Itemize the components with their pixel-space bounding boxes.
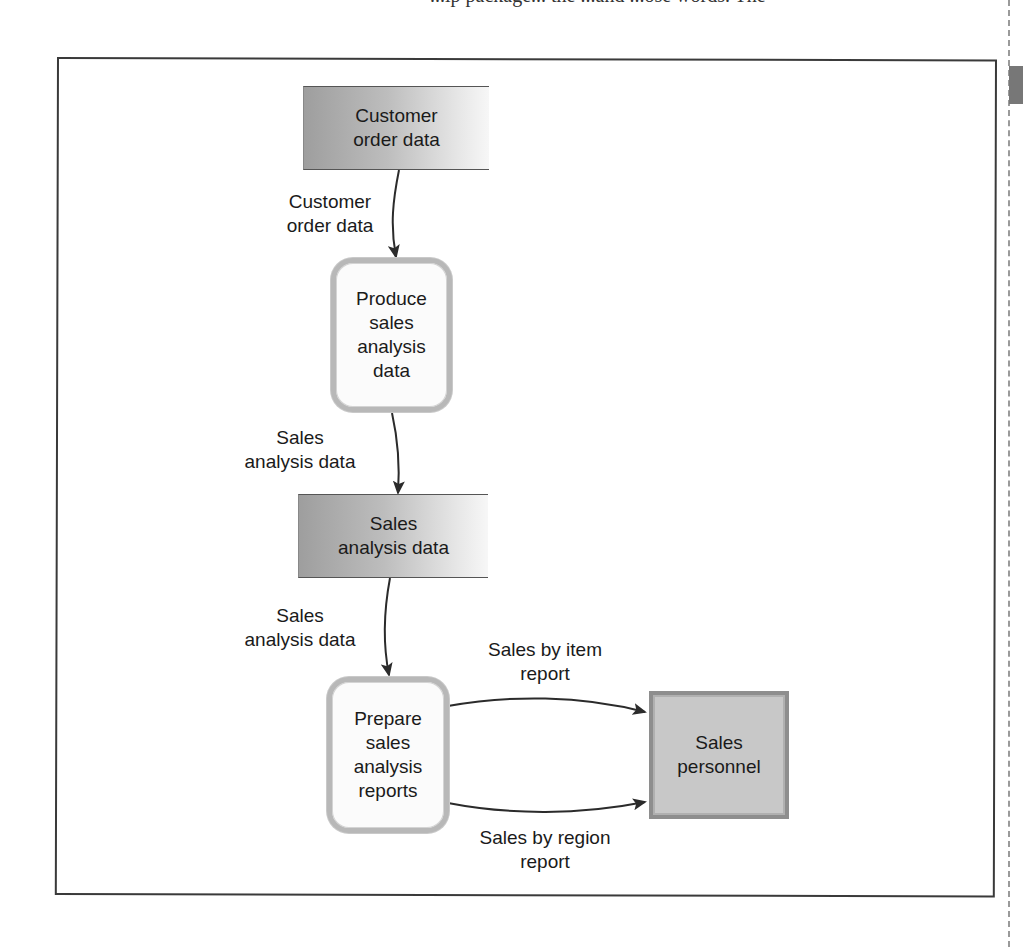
arrow-prepare-to-personnel-region <box>448 802 645 812</box>
flow-label-line1: Sales <box>236 604 364 628</box>
flow-label-sales-by-item-report: Sales by item report <box>470 638 620 686</box>
flow-label-line2: report <box>470 662 620 686</box>
arrow-produce-to-store2 <box>392 413 399 493</box>
flow-label-customer-order-data: Customer order data <box>270 190 390 238</box>
flow-label-line1: Sales by item <box>470 638 620 662</box>
process-prepare-sales-analysis-reports: Prepare sales analysis reports <box>327 677 449 833</box>
process-label-line2: sales <box>356 311 427 335</box>
process-label-line3: analysis <box>354 755 423 779</box>
flow-label-line2: order data <box>270 214 390 238</box>
flow-label-sales-analysis-data-1: Sales analysis data <box>236 426 364 474</box>
flow-label-sales-analysis-data-2: Sales analysis data <box>236 604 364 652</box>
store-label-line1: Customer <box>353 104 440 128</box>
flow-label-line2: analysis data <box>236 450 364 474</box>
process-label-line4: reports <box>354 779 423 803</box>
flow-arrows <box>0 0 1023 947</box>
data-store-sales-analysis-data: Sales analysis data <box>298 494 488 578</box>
process-label-line2: sales <box>354 731 423 755</box>
entity-label-line2: personnel <box>677 755 760 779</box>
process-label-line1: Prepare <box>354 707 423 731</box>
data-store-customer-order-data: Customer order data <box>303 86 489 170</box>
store-label-line2: analysis data <box>338 536 449 560</box>
flow-label-line1: Sales by region <box>465 826 625 850</box>
entity-sales-personnel: Sales personnel <box>649 691 789 819</box>
flow-label-line1: Customer <box>270 190 390 214</box>
flow-label-line2: report <box>465 850 625 874</box>
arrow-store1-to-produce <box>393 170 399 257</box>
entity-label-line1: Sales <box>677 731 760 755</box>
process-label-line3: analysis <box>356 335 427 359</box>
process-label-line4: data <box>356 359 427 383</box>
arrow-prepare-to-personnel-item <box>448 698 645 712</box>
flow-label-sales-by-region-report: Sales by region report <box>465 826 625 874</box>
store-label-line2: order data <box>353 128 440 152</box>
store-label-line1: Sales <box>338 512 449 536</box>
flow-label-line1: Sales <box>236 426 364 450</box>
flow-label-line2: analysis data <box>236 628 364 652</box>
arrow-store2-to-prepare <box>385 578 390 675</box>
process-label-line1: Produce <box>356 287 427 311</box>
process-produce-sales-analysis-data: Produce sales analysis data <box>331 258 452 412</box>
